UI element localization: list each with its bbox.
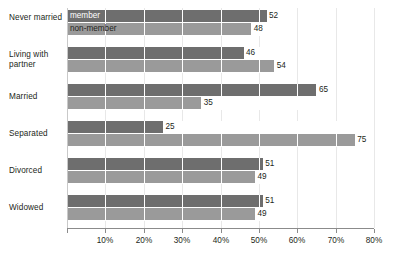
bar-grid-line xyxy=(221,84,222,110)
value-label-non-member: 48 xyxy=(252,24,264,34)
x-tick-mark xyxy=(182,229,183,233)
bar-grid-line xyxy=(105,121,106,147)
x-tick-label: 70% xyxy=(328,236,344,246)
bar-grid-line xyxy=(182,195,183,221)
x-tick-mark xyxy=(297,229,298,233)
value-label-non-member: 75 xyxy=(356,135,368,145)
x-tick-mark xyxy=(144,229,145,233)
legend-label-non-member: non-member xyxy=(70,24,116,34)
category-label: Separated xyxy=(9,129,67,139)
bar-grid-line xyxy=(182,47,183,73)
bar-group: 4654 xyxy=(67,47,374,73)
bar-grid-line xyxy=(259,121,260,147)
category-label: Widowed xyxy=(9,203,67,213)
bar-group: 2575 xyxy=(67,121,374,147)
bar-non-member xyxy=(67,171,255,183)
value-label-non-member: 54 xyxy=(275,61,287,71)
bar-grid-line xyxy=(259,84,260,110)
bar-member xyxy=(67,158,263,170)
legend-label-member: member xyxy=(70,11,100,21)
bar-grid-line xyxy=(221,158,222,184)
bar-non-member xyxy=(67,208,255,220)
bar-grid-line xyxy=(221,10,222,36)
x-tick-label: 80% xyxy=(366,236,382,246)
x-tick-label: 60% xyxy=(289,236,305,246)
category-label: Never married xyxy=(9,13,67,23)
bar-grid-line xyxy=(144,84,145,110)
x-tick-label: 10% xyxy=(97,236,113,246)
bar-grid-line xyxy=(221,47,222,73)
bar-grid-line xyxy=(182,158,183,184)
x-tick-mark xyxy=(374,229,375,233)
grid-line xyxy=(374,8,375,228)
bar-group: 5149 xyxy=(67,158,374,184)
bar-grid-line xyxy=(182,10,183,36)
bar-member xyxy=(67,195,263,207)
bar-grid-line xyxy=(259,47,260,73)
value-label-member: 46 xyxy=(245,48,257,58)
bar-grid-line xyxy=(105,158,106,184)
bar-grid-line xyxy=(297,121,298,147)
value-label-member: 51 xyxy=(264,196,276,206)
bar-grid-line xyxy=(144,121,145,147)
bar-grid-line xyxy=(182,84,183,110)
value-label-member: 51 xyxy=(264,159,276,169)
x-tick-label: 40% xyxy=(213,236,229,246)
bar-grid-line xyxy=(182,121,183,147)
category-label: Married xyxy=(9,92,67,102)
category-axis-labels: Never marriedLiving with partnerMarriedS… xyxy=(0,8,66,228)
category-label: Living with partner xyxy=(9,50,67,70)
value-label-non-member: 49 xyxy=(256,209,268,219)
x-tick-mark xyxy=(221,229,222,233)
bar-grid-line xyxy=(297,84,298,110)
bar-group: 5248membernon-member xyxy=(67,10,374,36)
x-tick-label: 20% xyxy=(136,236,152,246)
x-tick-label: 50% xyxy=(251,236,267,246)
value-label-member: 25 xyxy=(164,122,176,132)
bar-member xyxy=(67,121,163,133)
bar-grid-line xyxy=(144,47,145,73)
x-tick-mark xyxy=(336,229,337,233)
y-axis-line xyxy=(67,8,68,229)
bar-grid-line xyxy=(105,47,106,73)
bar-grid-line xyxy=(105,195,106,221)
bar-non-member xyxy=(67,134,355,146)
bar-group: 5149 xyxy=(67,195,374,221)
bar-grid-line xyxy=(336,121,337,147)
bar-grid-line xyxy=(221,121,222,147)
value-label-member: 52 xyxy=(268,11,280,21)
x-tick-mark xyxy=(259,229,260,233)
bar-member xyxy=(67,47,244,59)
bar-grid-line xyxy=(144,10,145,36)
value-label-member: 65 xyxy=(317,85,329,95)
x-tick-mark xyxy=(105,229,106,233)
bar-grid-line xyxy=(144,195,145,221)
bar-grid-line xyxy=(144,158,145,184)
plot-area: 5248membernon-member46546535257551495149 xyxy=(67,8,374,228)
category-label: Divorced xyxy=(9,166,67,176)
bar-grid-line xyxy=(221,195,222,221)
x-tick-label: 30% xyxy=(174,236,190,246)
bar-chart: Never marriedLiving with partnerMarriedS… xyxy=(0,0,409,263)
value-label-non-member: 49 xyxy=(256,172,268,182)
value-label-non-member: 35 xyxy=(202,98,214,108)
x-tick-mark xyxy=(67,229,68,233)
bar-non-member xyxy=(67,60,274,72)
bar-group: 6535 xyxy=(67,84,374,110)
bar-grid-line xyxy=(105,84,106,110)
